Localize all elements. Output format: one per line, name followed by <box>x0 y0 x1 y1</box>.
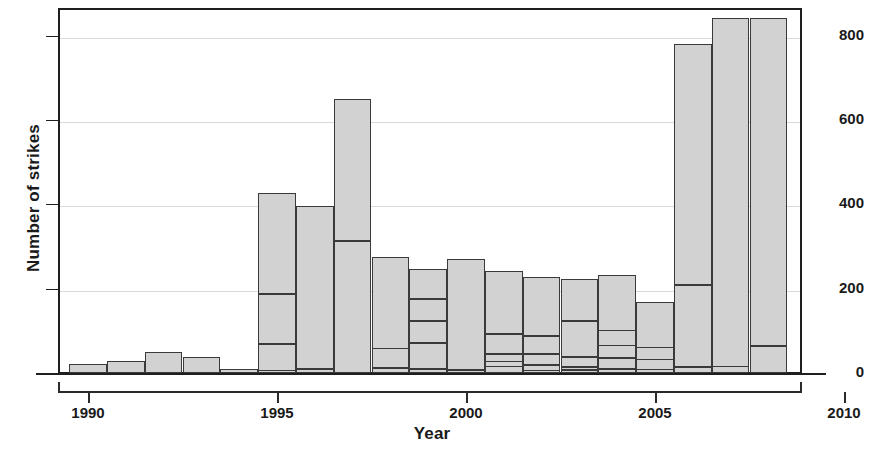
bar-2003-segment-16 <box>562 366 598 368</box>
x-tick-mark-2000 <box>466 392 468 403</box>
bar-2005-segment-63 <box>637 347 673 349</box>
bar-1999 <box>409 269 447 373</box>
bar-2003-segment-9 <box>562 369 598 371</box>
bar-2000 <box>447 259 485 373</box>
bar-2004-segment-103 <box>599 330 635 332</box>
bar-1995-segment-71 <box>259 343 295 345</box>
y-tick-label-800: 800 <box>820 26 864 43</box>
x-tick-label-2005: 2005 <box>615 404 695 421</box>
bar-1999-segment-12 <box>410 368 446 370</box>
bar-2001-segment-95 <box>486 333 522 335</box>
bar-2005-segment-11 <box>637 369 673 371</box>
bar-2004-segment-12 <box>599 368 635 370</box>
bar-2006-segment-211 <box>675 284 711 286</box>
bar-series <box>58 8 802 374</box>
y-tick-mark-200 <box>46 289 58 290</box>
x-tick-mark-2010 <box>844 392 846 403</box>
bar-2006-segment-16 <box>675 366 711 368</box>
bar-1999-segment-73 <box>410 342 446 344</box>
bar-2005-segment-34 <box>637 359 673 361</box>
bar-1997 <box>334 99 372 373</box>
bar-2004 <box>598 275 636 373</box>
y-tick-mark-600 <box>46 120 58 121</box>
x-tick-label-1995: 1995 <box>237 404 317 421</box>
y-tick-label-600: 600 <box>820 110 864 127</box>
x-tick-mark-1995 <box>277 392 279 403</box>
bar-2003-segment-41 <box>562 356 598 358</box>
x-axis-title: Year <box>0 424 864 444</box>
bar-2001-segment-18 <box>486 366 522 368</box>
bar-2002-segment-8 <box>524 370 560 372</box>
y-tick-mark-800 <box>46 36 58 37</box>
bar-1998 <box>372 257 410 373</box>
bar-1993 <box>183 357 221 373</box>
bar-2005 <box>636 302 674 373</box>
bar-1995-segment-8 <box>259 370 295 372</box>
bar-2007 <box>712 18 750 373</box>
bar-2002-segment-90 <box>524 335 560 337</box>
bar-2008-segment-66 <box>751 345 787 347</box>
bar-1999-segment-178 <box>410 298 446 300</box>
x-axis-cap-right <box>800 382 802 392</box>
bar-1995 <box>258 193 296 373</box>
bar-2003 <box>561 279 599 373</box>
bar-2002 <box>523 277 561 373</box>
x-tick-label-1990: 1990 <box>48 404 128 421</box>
bar-1997-segment-316 <box>335 240 371 242</box>
bar-2006 <box>674 44 712 373</box>
bar-1992 <box>145 352 183 373</box>
x-axis-line <box>58 391 802 393</box>
bar-1996-segment-12 <box>297 368 333 370</box>
x-tick-label-2010: 2010 <box>804 404 869 421</box>
bar-2002-segment-48 <box>524 353 560 355</box>
bar-2002-segment-21 <box>524 364 560 366</box>
bar-1995-segment-190 <box>259 293 295 295</box>
y-axis-title: Number of strikes <box>24 68 44 328</box>
bar-1999-segment-125 <box>410 320 446 322</box>
x-tick-mark-1990 <box>88 392 90 403</box>
y-tick-mark-400 <box>46 204 58 205</box>
bar-2003-segment-126 <box>562 320 598 322</box>
x-axis-cap-left <box>58 382 60 392</box>
bar-1996 <box>296 206 334 373</box>
y-tick-label-0: 0 <box>820 363 864 380</box>
bar-2001-segment-30 <box>486 361 522 363</box>
bar-2008 <box>750 18 788 373</box>
zero-baseline <box>36 373 826 375</box>
x-tick-label-2000: 2000 <box>426 404 506 421</box>
bar-1998-segment-60 <box>373 348 409 350</box>
x-tick-mark-2005 <box>655 392 657 403</box>
bar-2007-segment-18 <box>713 366 749 368</box>
bar-1991 <box>107 361 145 373</box>
bar-2001 <box>485 271 523 373</box>
y-tick-label-400: 400 <box>820 194 864 211</box>
bar-1998-segment-14 <box>373 367 409 369</box>
bar-2000-segment-9 <box>448 369 484 371</box>
bar-1990 <box>69 364 107 373</box>
bar-2001-segment-47 <box>486 353 522 355</box>
bar-2004-segment-38 <box>599 357 635 359</box>
bar-2004-segment-68 <box>599 345 635 347</box>
y-tick-label-200: 200 <box>820 279 864 296</box>
